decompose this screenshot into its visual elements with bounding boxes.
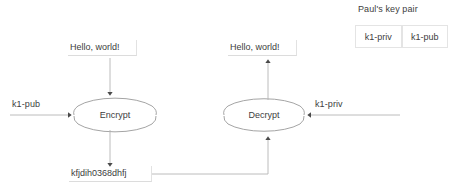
edge-ciphertext-to-decrypt: [152, 139, 268, 174]
keypair-title: Paul's key pair: [358, 4, 418, 15]
decrypt-node-label[interactable]: Decrypt: [234, 110, 294, 120]
diagram-canvas: Encrypt Decrypt Hello, world! Hello, wor…: [0, 0, 457, 191]
key-priv-input-label[interactable]: k1-priv: [315, 99, 343, 110]
plaintext-left-label[interactable]: Hello, world!: [68, 40, 137, 56]
key-pub-input-label[interactable]: k1-pub: [12, 99, 40, 110]
keypair-table: k1-priv k1-pub: [355, 25, 448, 48]
encrypt-node-label[interactable]: Encrypt: [85, 110, 145, 120]
keypair-cell-private[interactable]: k1-priv: [355, 25, 402, 48]
ciphertext-label[interactable]: kfjdih0368dhfj: [69, 166, 152, 182]
keypair-cell-public[interactable]: k1-pub: [402, 25, 449, 48]
plaintext-right-label[interactable]: Hello, world!: [228, 40, 297, 56]
